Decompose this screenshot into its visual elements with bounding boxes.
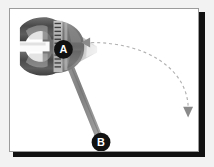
figure-panel: A B bbox=[9, 8, 199, 152]
wrench-jaw-gap-shade bbox=[20, 43, 46, 46]
rotation-arc-path bbox=[91, 43, 188, 106]
marker-a[interactable]: A bbox=[54, 40, 73, 59]
marker-b[interactable]: B bbox=[92, 133, 111, 151]
marker-a-label: A bbox=[60, 43, 68, 55]
diagram-canvas: A B bbox=[10, 9, 198, 151]
wrench-tool bbox=[20, 17, 102, 142]
figure-root: A B bbox=[0, 0, 214, 167]
rotation-direction-arrow bbox=[81, 38, 193, 118]
rotation-arrow-end-head bbox=[183, 107, 193, 118]
marker-b-label: B bbox=[97, 136, 105, 148]
